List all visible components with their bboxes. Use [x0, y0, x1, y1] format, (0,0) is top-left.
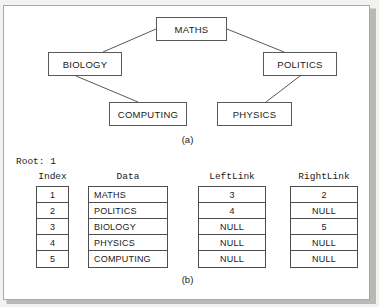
- table-cell-rightlink-1: 2: [291, 187, 357, 203]
- table-cell-data-1: MATHS: [89, 187, 167, 203]
- column-cells-rightlink: 2NULL5NULLNULL: [290, 186, 358, 268]
- tree-edge-maths-biology: [103, 29, 156, 52]
- tree-node-label: POLITICS: [277, 59, 322, 70]
- table-cell-rightlink-5: NULL: [291, 251, 357, 267]
- tree-edge-biology-computing: [76, 76, 138, 102]
- figure-panel: MATHSBIOLOGYPOLITICSCOMPUTINGPHYSICS (a)…: [3, 5, 370, 300]
- column-header-leftlink: LeftLink: [198, 171, 266, 182]
- caption-b: (b): [4, 274, 371, 285]
- tree-node-label: COMPUTING: [118, 109, 178, 120]
- tree-node-biology: BIOLOGY: [48, 52, 122, 76]
- tree-node-politics: POLITICS: [263, 52, 337, 76]
- figure-root: MATHSBIOLOGYPOLITICSCOMPUTINGPHYSICS (a)…: [0, 0, 379, 307]
- table-cell-data-5: COMPUTING: [89, 251, 167, 267]
- table-cell-index-1: 1: [37, 187, 68, 203]
- column-cells-leftlink: 34NULLNULLNULL: [198, 186, 266, 268]
- column-header-rightlink: RightLink: [290, 171, 358, 182]
- tree-diagram: MATHSBIOLOGYPOLITICSCOMPUTINGPHYSICS: [4, 6, 371, 156]
- tree-node-computing: COMPUTING: [109, 102, 187, 126]
- tree-node-maths: MATHS: [156, 17, 227, 41]
- table-cell-rightlink-4: NULL: [291, 235, 357, 251]
- table-cell-leftlink-5: NULL: [199, 251, 265, 267]
- table-cell-leftlink-1: 3: [199, 187, 265, 203]
- column-header-data: Data: [88, 171, 168, 182]
- table-cell-rightlink-3: 5: [291, 219, 357, 235]
- root-pointer-label: Root: 1: [16, 156, 56, 167]
- tree-node-label: BIOLOGY: [63, 59, 108, 70]
- column-cells-data: MATHSPOLITICSBIOLOGYPHYSICSCOMPUTING: [88, 186, 168, 268]
- tree-node-label: MATHS: [175, 24, 209, 35]
- column-cells-index: 12345: [36, 186, 69, 268]
- table-cell-index-3: 3: [37, 219, 68, 235]
- table-cell-index-2: 2: [37, 203, 68, 219]
- tree-edge-politics-physics: [266, 76, 300, 102]
- table-cell-leftlink-4: NULL: [199, 235, 265, 251]
- tree-node-label: PHYSICS: [233, 109, 276, 120]
- tree-edge-maths-politics: [227, 29, 284, 52]
- column-header-index: Index: [21, 171, 84, 182]
- table-cell-leftlink-3: NULL: [199, 219, 265, 235]
- table-cell-data-4: PHYSICS: [89, 235, 167, 251]
- tree-node-physics: PHYSICS: [217, 102, 292, 126]
- table-cell-index-4: 4: [37, 235, 68, 251]
- table-cell-index-5: 5: [37, 251, 68, 267]
- table-cell-rightlink-2: NULL: [291, 203, 357, 219]
- table-cell-data-2: POLITICS: [89, 203, 167, 219]
- table-cell-data-3: BIOLOGY: [89, 219, 167, 235]
- table-cell-leftlink-2: 4: [199, 203, 265, 219]
